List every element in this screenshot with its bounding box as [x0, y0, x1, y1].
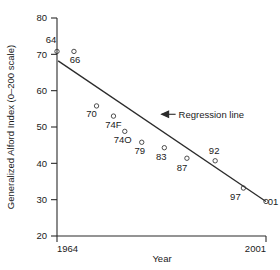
annotation-arrowhead-icon — [162, 111, 169, 117]
data-point: 92 — [209, 145, 220, 163]
y-tick-label: 80 — [36, 12, 47, 23]
alford-index-scatter-chart: 20304050607080 Generalized Alford Index … — [0, 0, 280, 270]
data-point-label: 64 — [46, 34, 57, 45]
data-point-label: 83 — [156, 151, 167, 162]
y-tick-label: 60 — [36, 85, 47, 96]
y-axis-ticks: 20304050607080 — [36, 12, 57, 241]
x-tick-label: 2001 — [245, 243, 266, 254]
y-tick-label: 70 — [36, 49, 47, 60]
regression-line — [58, 61, 266, 202]
data-point-label: 92 — [209, 145, 220, 156]
data-point: 83 — [156, 146, 167, 162]
data-point-label: 79 — [134, 145, 145, 156]
y-tick-label: 30 — [36, 194, 47, 205]
y-axis: 20304050607080 Generalized Alford Index … — [5, 12, 57, 241]
data-point: 79 — [134, 140, 145, 156]
data-point-label: 70 — [86, 108, 97, 119]
data-point: 87 — [177, 156, 189, 173]
data-point: 74O — [114, 129, 132, 145]
data-point-label: 97 — [230, 191, 241, 202]
y-tick-label: 20 — [36, 230, 47, 241]
data-point-label: 74F — [105, 119, 122, 130]
chart-figure: 20304050607080 Generalized Alford Index … — [0, 0, 280, 270]
x-axis-title: Year — [152, 253, 171, 264]
y-tick-label: 50 — [36, 121, 47, 132]
x-axis: 19642001 Year — [57, 236, 266, 264]
data-point-marker — [162, 146, 166, 150]
data-points: 64667074F74O798387929701 — [46, 34, 279, 207]
x-tick-label: 1964 — [57, 243, 78, 254]
y-tick-label: 40 — [36, 158, 47, 169]
data-point-label: 01 — [268, 196, 279, 207]
chart-annotations: Regression line — [162, 109, 244, 120]
data-point-marker — [185, 156, 189, 160]
data-point: 01 — [264, 196, 278, 207]
data-point-label: 66 — [70, 54, 81, 65]
data-point-marker — [111, 114, 115, 118]
data-point: 70 — [86, 104, 98, 119]
annotation-label: Regression line — [179, 109, 244, 120]
data-point-marker — [213, 159, 217, 163]
data-point-marker — [123, 129, 127, 133]
data-point-marker — [72, 49, 76, 53]
data-point-label: 74O — [114, 134, 132, 145]
data-point-marker — [140, 140, 144, 144]
data-point: 66 — [70, 49, 81, 65]
x-axis-ticks: 19642001 — [57, 236, 266, 254]
data-point-label: 87 — [177, 162, 188, 173]
data-point: 97 — [230, 186, 245, 202]
y-axis-title: Generalized Alford Index (0–200 scale) — [5, 45, 16, 209]
regression-line-path — [58, 61, 266, 202]
regression-line-annotation: Regression line — [162, 109, 244, 120]
data-point: 74F — [105, 114, 122, 130]
